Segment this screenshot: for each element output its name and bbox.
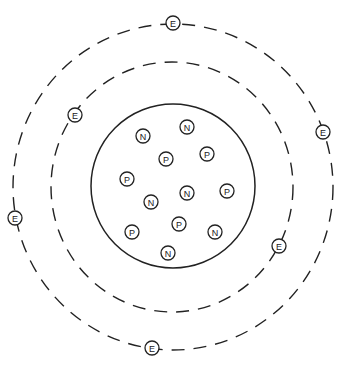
neutron: N	[180, 186, 194, 200]
electron: E	[316, 125, 330, 139]
svg-text:E: E	[320, 128, 326, 138]
proton: P	[125, 225, 139, 239]
svg-text:E: E	[276, 242, 282, 252]
svg-text:P: P	[163, 155, 169, 165]
svg-text:E: E	[170, 19, 176, 29]
electron: E	[272, 239, 286, 253]
proton: P	[200, 147, 214, 161]
proton: P	[220, 184, 234, 198]
neutron: N	[180, 120, 194, 134]
svg-text:P: P	[224, 187, 230, 197]
neutron: N	[136, 129, 150, 143]
neutron: N	[161, 246, 175, 260]
electron: E	[8, 211, 22, 225]
electron: E	[166, 16, 180, 30]
svg-text:P: P	[204, 150, 210, 160]
orbit-outer	[13, 24, 333, 350]
svg-text:N: N	[184, 123, 191, 133]
svg-text:N: N	[184, 189, 191, 199]
atom-diagram: NNPPPNPNPPNNEEEEEE	[0, 0, 343, 367]
orbit-inner	[51, 62, 293, 312]
svg-text:N: N	[165, 249, 172, 259]
svg-text:P: P	[176, 220, 182, 230]
proton: P	[120, 172, 134, 186]
electron: E	[68, 108, 82, 122]
svg-text:N: N	[148, 198, 155, 208]
svg-text:E: E	[12, 214, 18, 224]
neutron: N	[208, 225, 222, 239]
svg-text:N: N	[212, 228, 219, 238]
svg-text:E: E	[72, 111, 78, 121]
proton: P	[172, 217, 186, 231]
svg-text:E: E	[149, 344, 155, 354]
proton: P	[159, 152, 173, 166]
svg-text:P: P	[129, 228, 135, 238]
svg-text:P: P	[124, 175, 130, 185]
electron: E	[145, 341, 159, 355]
neutron: N	[144, 195, 158, 209]
svg-text:N: N	[140, 132, 147, 142]
